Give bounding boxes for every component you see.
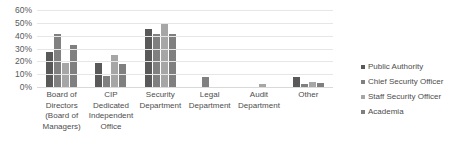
bar	[46, 52, 53, 87]
x-axis-label-line: Managers)	[38, 122, 85, 133]
x-axis-label-line: Dedicated	[87, 101, 134, 112]
y-axis-tick-label: 30%	[15, 44, 32, 53]
legend-label: Public Authority	[368, 62, 423, 71]
bar	[309, 82, 316, 87]
bar	[145, 29, 152, 87]
bar	[119, 64, 126, 87]
bar	[111, 55, 118, 87]
x-axis-label-line: Other	[285, 90, 332, 101]
gridline	[37, 36, 333, 37]
x-axis-label-line: Legal	[186, 90, 233, 101]
x-axis-label: SecurityDepartment	[136, 90, 185, 132]
bar	[70, 45, 77, 87]
x-axis-label: LegalDepartment	[185, 90, 234, 132]
x-axis-label: CIPDedicatedIndependentOffice	[86, 90, 135, 132]
x-axis-label-line: Security	[137, 90, 184, 101]
gridline	[37, 23, 333, 24]
legend-swatch-icon	[361, 80, 365, 84]
legend-swatch-icon	[361, 65, 365, 69]
x-axis-label-line: Department	[186, 101, 233, 112]
x-axis-label-line: Department	[137, 101, 184, 112]
gridline	[37, 49, 333, 50]
bar	[301, 84, 308, 87]
x-axis-label: Other	[284, 90, 333, 132]
y-axis-tick-label: 0%	[20, 83, 32, 92]
x-axis-label: AuditDepartment	[234, 90, 283, 132]
legend-item[interactable]: Staff Security Officer	[361, 90, 464, 103]
x-axis-label: Board ofDirectors(Board ofManagers)	[37, 90, 86, 132]
y-axis-tick-label: 50%	[15, 19, 32, 28]
plot-area	[37, 10, 333, 88]
x-axis-label-line: Independent	[87, 111, 134, 122]
y-axis-tick-label: 10%	[15, 70, 32, 79]
legend-item[interactable]: Chief Security Officer	[361, 75, 464, 88]
legend-swatch-icon	[361, 95, 365, 99]
bar	[161, 23, 168, 87]
legend-label: Academia	[368, 107, 404, 116]
bar	[202, 77, 209, 87]
x-axis-label-line: Board of	[38, 90, 85, 101]
x-axis-label-line: Department	[235, 101, 282, 112]
x-axis-category-labels: Board ofDirectors(Board ofManagers)CIPDe…	[37, 90, 333, 132]
y-axis-tick-label: 20%	[15, 57, 32, 66]
legend-label: Staff Security Officer	[368, 92, 441, 101]
bar	[317, 83, 324, 87]
plot-wrapper: 60%50%40%30%20%10%0% Board ofDirectors(B…	[0, 0, 352, 143]
gridline	[37, 74, 333, 75]
bar-chart: 60%50%40%30%20%10%0% Board ofDirectors(B…	[0, 0, 464, 143]
x-axis-label-line: (Board of	[38, 111, 85, 122]
bar	[259, 84, 266, 87]
y-axis: 60%50%40%30%20%10%0%	[0, 10, 34, 87]
gridline	[37, 10, 333, 11]
chart-legend: Public AuthorityChief Security OfficerSt…	[361, 60, 464, 120]
legend-item[interactable]: Academia	[361, 105, 464, 118]
bar	[293, 77, 300, 87]
legend-item[interactable]: Public Authority	[361, 60, 464, 73]
y-axis-tick-label: 60%	[15, 6, 32, 15]
y-axis-tick-label: 40%	[15, 31, 32, 40]
x-axis-label-line: Office	[87, 122, 134, 133]
gridline	[37, 61, 333, 62]
legend-label: Chief Security Officer	[368, 77, 443, 86]
x-axis-label-line: CIP	[87, 90, 134, 101]
legend-swatch-icon	[361, 110, 365, 114]
x-axis-label-line: Audit	[235, 90, 282, 101]
bar	[103, 76, 110, 87]
x-axis-label-line: Directors	[38, 101, 85, 112]
